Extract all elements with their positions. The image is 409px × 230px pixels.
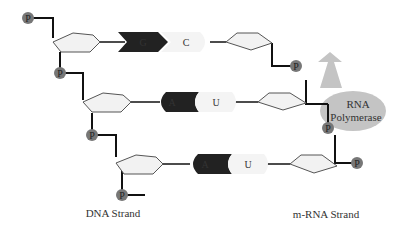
- svg-text:G: G: [139, 37, 146, 48]
- svg-text:P: P: [89, 130, 95, 141]
- dna-sugar-1: [53, 33, 100, 52]
- phosphate-dna-2: P: [54, 67, 66, 79]
- base-pair-1: G C: [118, 32, 205, 52]
- svg-text:P: P: [354, 158, 360, 169]
- phosphate-rna-1: P: [290, 60, 302, 72]
- svg-text:A: A: [168, 97, 176, 108]
- svg-text:P: P: [119, 190, 125, 201]
- mrna-strand-label: m-RNA Strand: [293, 208, 360, 220]
- base-pair-2: A U: [161, 92, 236, 112]
- base-pair-3: A U: [193, 154, 268, 174]
- rna-sugar-2: [258, 93, 306, 110]
- rna-sugar-3: [290, 155, 337, 173]
- svg-text:P: P: [25, 13, 31, 24]
- polymerase-label-line2: Polymerase: [330, 111, 381, 123]
- rna-sugar-1: [226, 33, 272, 50]
- phosphate-dna-4: P: [116, 189, 128, 201]
- transcription-diagram: RNA Polymerase G: [0, 0, 409, 230]
- phosphate-rna-3: P: [351, 157, 363, 169]
- phosphate-dna-3: P: [86, 129, 98, 141]
- dna-sugar-2: [83, 93, 131, 112]
- svg-text:P: P: [57, 68, 63, 79]
- svg-text:C: C: [183, 37, 190, 48]
- svg-text:P: P: [293, 61, 299, 72]
- svg-text:P: P: [325, 123, 331, 134]
- dna-base-a: [161, 92, 199, 112]
- phosphate-dna-1: P: [22, 12, 34, 24]
- phosphate-rna-2: P: [322, 122, 334, 134]
- polymerase-label-line1: RNA: [346, 98, 369, 110]
- svg-text:U: U: [212, 97, 220, 108]
- dna-sugar-3: [116, 155, 163, 174]
- svg-text:U: U: [244, 159, 252, 170]
- svg-text:A: A: [201, 159, 209, 170]
- dna-base-a: [193, 154, 232, 174]
- dna-strand-label: DNA Strand: [86, 207, 141, 219]
